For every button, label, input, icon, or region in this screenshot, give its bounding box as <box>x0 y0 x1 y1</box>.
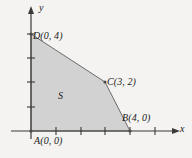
vertex-label-b: B(4, 0) <box>122 113 150 123</box>
vertex-label-a: A(0, 0) <box>34 136 62 146</box>
vertex-label-c: C(3, 2) <box>107 77 136 87</box>
plot-svg <box>0 0 192 158</box>
region-label-s: S <box>58 91 63 101</box>
y-axis-arrow-icon <box>28 6 34 14</box>
vertex-marker-b <box>128 129 131 132</box>
vertex-marker-a <box>29 129 32 132</box>
y-axis-label: y <box>39 3 44 13</box>
coordinate-plane-figure: D(0, 4) C(3, 2) B(4, 0) A(0, 0) S y x <box>0 0 192 158</box>
x-axis-arrow-icon <box>172 128 180 134</box>
vertex-label-d: D(0, 4) <box>33 31 63 41</box>
x-axis-label: x <box>180 124 185 134</box>
